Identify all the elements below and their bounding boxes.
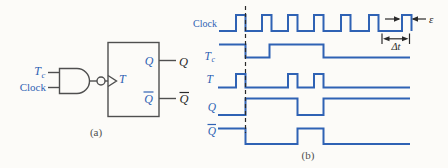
waveform-t <box>218 74 410 88</box>
circuit-diagram: T c Clock T Q Q Q Q (a) <box>20 43 189 140</box>
figure-t-flipflop: T c Clock T Q Q Q Q (a) Clock T c T Q Q … <box>0 0 448 168</box>
circuit-clock-label: Clock <box>20 81 47 93</box>
waveform-q <box>218 99 410 116</box>
caption-a: (a) <box>90 126 103 139</box>
timing-diagram: Clock T c T Q Q ε Δt (b) <box>193 6 434 162</box>
circuit-q-external-label: Q <box>179 55 188 69</box>
edge-trigger-icon <box>108 76 117 87</box>
timing-tc-subscript: c <box>212 55 216 64</box>
waveform-tc <box>219 45 410 58</box>
waveform-qbar <box>218 129 410 145</box>
circuit-qbar-internal-label: Q <box>144 92 153 106</box>
delta-t-label: Δt <box>390 41 401 52</box>
delta-t-arrow-right-head <box>402 36 409 41</box>
inverter-bubble-icon <box>97 77 105 85</box>
figure-canvas: T c Clock T Q Q Q Q (a) Clock T c T Q Q … <box>0 0 448 168</box>
epsilon-arrow-right-head <box>394 16 401 21</box>
timing-q-label: Q <box>208 101 217 113</box>
circuit-qbar-external-label: Q <box>180 92 189 106</box>
nand-gate <box>60 69 90 94</box>
epsilon-label: ε <box>429 13 434 25</box>
circuit-q-internal-label: Q <box>145 54 154 68</box>
timing-qbar-label: Q <box>208 125 217 137</box>
circuit-t-input-label: T <box>119 72 127 86</box>
timing-t-label: T <box>207 73 215 85</box>
delta-t-arrow-left-head <box>383 36 390 41</box>
circuit-tc-subscript: c <box>42 70 46 80</box>
timing-clock-label: Clock <box>193 18 217 29</box>
caption-b: (b) <box>302 149 315 162</box>
waveform-clock <box>219 15 412 31</box>
